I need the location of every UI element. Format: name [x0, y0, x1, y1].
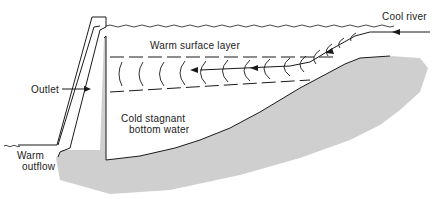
label-warm-outflow-1: Warm	[17, 150, 44, 161]
reservoir-diagram	[0, 0, 443, 199]
label-cool-river: Cool river	[382, 11, 427, 22]
label-warm-outflow-2: outflow	[22, 161, 55, 172]
dam-conduit	[58, 26, 100, 145]
label-outlet: Outlet	[31, 84, 59, 95]
label-cold-water-1: Cold stagnant	[121, 113, 185, 124]
water-surface	[106, 25, 394, 27]
arrow-left-icon	[250, 65, 258, 71]
reservoir-bed	[56, 36, 428, 194]
label-warm-surface-layer: Warm surface layer	[150, 40, 240, 51]
arrow-left-icon	[392, 29, 400, 35]
arrow-left-icon	[190, 67, 198, 73]
arrow-right-icon	[84, 86, 91, 92]
label-cold-water-2: bottom water	[129, 124, 189, 135]
layer-bottom-dashed	[110, 80, 310, 92]
outflow-surface	[4, 145, 20, 147]
